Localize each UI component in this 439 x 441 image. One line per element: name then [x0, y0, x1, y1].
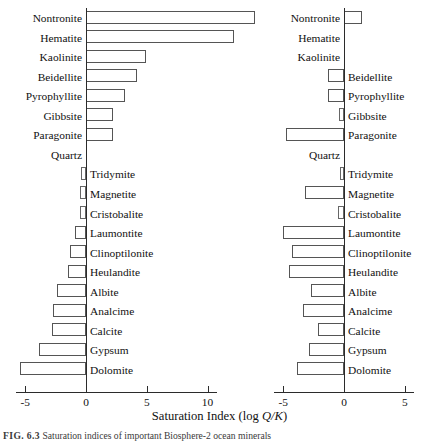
bar-label-clinoptilonite: Clinoptilonite: [348, 244, 439, 262]
bar-row: Magnetite: [0, 184, 220, 204]
bar-row: Dolomite: [0, 360, 220, 380]
bar-label-albite: Albite: [348, 283, 439, 301]
x-tick-label: 0: [329, 396, 359, 409]
bar-magnetite: [305, 186, 344, 199]
bar-pyrophyllite: [86, 89, 125, 102]
bar-label-kaolinite: Kaolinite: [0, 48, 82, 66]
bar-label-cristobalite: Cristobalite: [90, 205, 220, 223]
chart-panel-right: NontroniteHematiteKaoliniteBeidellitePyr…: [219, 0, 439, 398]
bar-row: Laumontite: [0, 223, 220, 243]
bar-heulandite: [289, 265, 344, 278]
bar-laumontite: [75, 226, 86, 239]
bar-row: Clinoptilonite: [0, 243, 220, 263]
bar-albite: [57, 284, 86, 297]
bar-label-gibbsite: Gibbsite: [348, 107, 439, 125]
x-tick: [25, 386, 26, 393]
bar-label-heulandite: Heulandite: [348, 263, 439, 281]
bar-label-analcime: Analcime: [90, 302, 220, 320]
bar-row: Paragonite: [219, 125, 439, 145]
bar-dolomite: [20, 362, 86, 375]
x-tick-label: -5: [268, 396, 298, 409]
bar-heulandite: [68, 265, 86, 278]
bar-row: Cristobalite: [0, 204, 220, 224]
bar-kaolinite: [86, 50, 146, 63]
bar-row: Calcite: [219, 321, 439, 341]
x-tick: [208, 386, 209, 393]
bar-paragonite: [86, 128, 113, 141]
bar-row: Clinoptilonite: [219, 243, 439, 263]
bar-label-gypsum: Gypsum: [90, 341, 220, 359]
figure-number: FIG. 6.3: [3, 430, 40, 441]
bar-gibbsite: [86, 108, 113, 121]
bar-label-quartz: Quartz: [219, 146, 340, 164]
bar-label-albite: Albite: [90, 283, 220, 301]
bar-beidellite: [328, 69, 344, 82]
x-axis-title: Saturation Index (log Q/K): [0, 409, 439, 424]
x-tick: [147, 386, 148, 393]
x-tick-label: 5: [390, 396, 420, 409]
bar-label-hematite: Hematite: [219, 29, 340, 47]
bar-clinoptilonite: [292, 245, 344, 258]
bar-label-paragonite: Paragonite: [348, 126, 439, 144]
plot-area-right: NontroniteHematiteKaoliniteBeidellitePyr…: [219, 0, 439, 398]
bar-row: Kaolinite: [0, 47, 220, 67]
figure-caption: FIG. 6.3 Saturation indices of important…: [3, 430, 439, 441]
bar-row: Quartz: [0, 145, 220, 165]
x-tick: [283, 386, 284, 393]
bar-label-gibbsite: Gibbsite: [0, 107, 82, 125]
zero-axis-line-left: [86, 8, 87, 392]
bar-row: Kaolinite: [219, 47, 439, 67]
bar-row: Magnetite: [219, 184, 439, 204]
x-tick-label: 10: [193, 396, 223, 409]
bar-nontronite: [344, 11, 362, 24]
bar-row: Nontronite: [219, 8, 439, 28]
bar-label-magnetite: Magnetite: [348, 185, 439, 203]
bar-label-paragonite: Paragonite: [0, 126, 82, 144]
bar-albite: [311, 284, 344, 297]
chart-panel-left: NontroniteHematiteKaoliniteBeidellitePyr…: [0, 0, 220, 398]
bar-label-tridymite: Tridymite: [348, 165, 439, 183]
bar-row: Gibbsite: [219, 106, 439, 126]
x-axis-title-main: Saturation Index (log: [152, 409, 262, 423]
bar-row: Cristobalite: [219, 204, 439, 224]
bar-pyrophyllite: [328, 89, 344, 102]
bar-row: Albite: [0, 282, 220, 302]
bar-label-laumontite: Laumontite: [90, 224, 220, 242]
bar-label-kaolinite: Kaolinite: [219, 48, 340, 66]
bar-label-heulandite: Heulandite: [90, 263, 220, 281]
bar-row: Gibbsite: [0, 106, 220, 126]
x-tick-label: 5: [132, 396, 162, 409]
x-axis-line-left: [16, 392, 216, 393]
bar-row: Albite: [219, 282, 439, 302]
bar-row: Analcime: [219, 301, 439, 321]
bar-label-pyrophyllite: Pyrophyllite: [0, 87, 82, 105]
bar-row: Beidellite: [0, 67, 220, 87]
bar-analcime: [303, 304, 344, 317]
bar-row: Quartz: [219, 145, 439, 165]
bar-dolomite: [297, 362, 344, 375]
bar-label-analcime: Analcime: [348, 302, 439, 320]
bar-row: Paragonite: [0, 125, 220, 145]
bar-label-gypsum: Gypsum: [348, 341, 439, 359]
bar-label-dolomite: Dolomite: [90, 361, 220, 379]
bar-label-magnetite: Magnetite: [90, 185, 220, 203]
bar-row: Gypsum: [219, 340, 439, 360]
x-tick: [86, 386, 87, 393]
bar-label-quartz: Quartz: [0, 146, 82, 164]
bar-row: Tridymite: [0, 164, 220, 184]
bar-label-clinoptilonite: Clinoptilonite: [90, 244, 220, 262]
bar-label-laumontite: Laumontite: [348, 224, 439, 242]
bar-laumontite: [283, 226, 344, 239]
x-tick: [405, 386, 406, 393]
bar-row: Pyrophyllite: [219, 86, 439, 106]
bar-row: Nontronite: [0, 8, 220, 28]
bar-row: Analcime: [0, 301, 220, 321]
bar-label-cristobalite: Cristobalite: [348, 205, 439, 223]
bar-calcite: [318, 323, 344, 336]
x-axis-title-italic: Q/K: [262, 409, 283, 423]
bar-row: Heulandite: [219, 262, 439, 282]
bar-label-nontronite: Nontronite: [0, 9, 82, 27]
bar-beidellite: [86, 69, 137, 82]
bar-row: Dolomite: [219, 360, 439, 380]
